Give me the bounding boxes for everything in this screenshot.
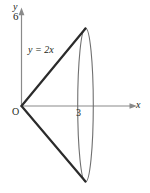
y-axis-arrowhead — [19, 8, 25, 16]
equation-annotation: y = 2x — [28, 45, 54, 55]
figure-container: y 6 O 3 x y = 2x — [0, 0, 150, 193]
base-circle-ellipse — [78, 28, 94, 182]
x-tick-label-3: 3 — [76, 108, 81, 118]
y-axis — [19, 8, 25, 108]
x-axis-label: x — [136, 100, 140, 110]
y-tick-label-6: 6 — [13, 11, 19, 22]
cone-diagram-svg — [0, 0, 150, 193]
origin-label: O — [12, 107, 19, 117]
line-y-equals-2x — [22, 29, 86, 107]
